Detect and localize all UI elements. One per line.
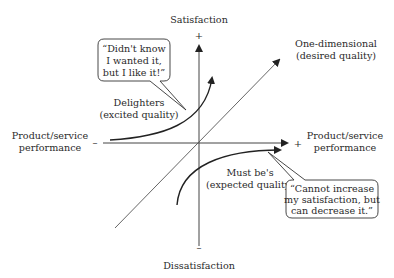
- delighters-quote-line2: I wanted it,: [106, 55, 162, 66]
- delighters-quote-line1: “Didn't know: [102, 43, 166, 54]
- one-dimensional-label-line1: One-dimensional: [295, 38, 377, 49]
- one-dimensional-label-line2: (desired quality): [296, 50, 376, 61]
- right-performance-label-line1: Product/service: [307, 130, 384, 141]
- must-be-label-line2: (expected quality): [206, 179, 294, 190]
- satisfaction-label: Satisfaction: [170, 14, 228, 25]
- horizontal-axis-plus-sign: +: [294, 138, 302, 149]
- delighters-label-line2: (excited quality): [99, 109, 178, 120]
- must-be-quote-line1: “Cannot increase: [290, 183, 375, 194]
- one-dimensional-line: [115, 60, 279, 228]
- delighters-quote-line3: but I like it!”: [103, 67, 166, 78]
- must-be-quote-line3: can decrease it.”: [291, 205, 373, 216]
- delighters-label-line1: Delighters: [114, 97, 165, 108]
- must-be-quote-line2: my satisfaction, but: [284, 194, 380, 205]
- kano-model-diagram: + – Satisfaction Dissatisfaction – + Pro…: [0, 0, 394, 278]
- left-performance-label-line1: Product/service: [12, 130, 89, 141]
- vertical-axis-plus-sign: +: [195, 30, 203, 41]
- must-be-label-line1: Must be's: [226, 167, 273, 178]
- dissatisfaction-label: Dissatisfaction: [163, 260, 235, 271]
- right-performance-label-line2: performance: [314, 142, 377, 153]
- vertical-axis-minus-sign: –: [197, 242, 202, 253]
- horizontal-axis-minus-sign: –: [93, 137, 98, 148]
- left-performance-label-line2: performance: [19, 142, 82, 153]
